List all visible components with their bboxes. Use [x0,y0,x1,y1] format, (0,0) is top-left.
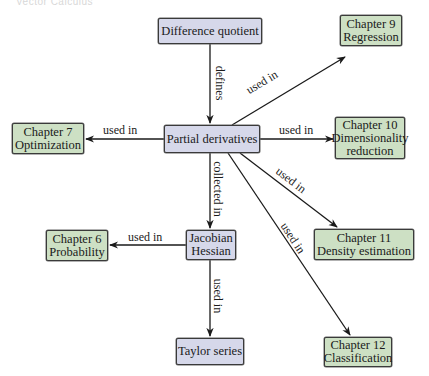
node-label: Density estimation [317,245,411,258]
edge-label-ch7: used in [103,124,137,136]
node-jacobian-hessian: Jacobian Hessian [186,230,236,260]
node-chapter-6-probability: Chapter 6 Probability [46,230,108,261]
node-label: Partial derivatives [167,133,258,146]
node-label: Optimization [15,139,81,152]
node-chapter-7-optimization: Chapter 7 Optimization [12,123,84,154]
node-label: Probability [49,246,105,259]
node-label: Chapter 11 [337,232,392,245]
node-chapter-12-classification: Chapter 12 Classification [324,337,392,367]
node-label: Chapter 7 [24,126,73,139]
node-label: reduction [346,145,393,158]
node-chapter-10-dimensionality-reduction: Chapter 10 Dimensionality reduction [335,117,405,159]
edge-label-ch6: used in [128,231,162,243]
node-taylor-series: Taylor series [176,338,244,365]
node-label: Classification [324,352,393,365]
edge-to-ch11 [240,153,337,227]
node-label: Chapter 9 [347,18,396,31]
node-label: Dimensionality [331,132,408,145]
node-label: Chapter 10 [342,119,397,132]
node-partial-derivatives: Partial derivatives [164,125,260,153]
node-difference-quotient: Difference quotient [158,18,262,44]
edge-label-defines: defines [214,66,226,101]
edge-label-taylor: used in [212,279,224,313]
node-label: Chapter 6 [53,233,102,246]
node-label: Taylor series [178,345,242,358]
node-chapter-9-regression: Chapter 9 Regression [340,15,402,46]
edge-label-collected-in: collected in [212,161,224,217]
node-chapter-11-density-estimation: Chapter 11 Density estimation [314,229,414,260]
node-label: Regression [343,31,399,44]
node-label: Hessian [191,245,231,258]
node-label: Difference quotient [161,25,258,38]
edge-label-ch10: used in [279,124,313,136]
